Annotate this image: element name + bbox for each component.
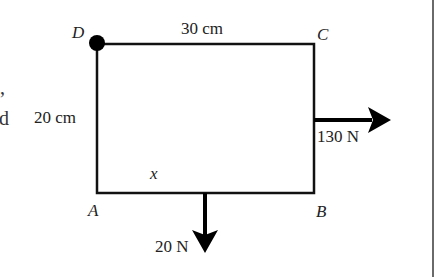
force-label-20N: 20 N [155, 238, 189, 255]
dimension-left-20cm: 20 cm [34, 109, 76, 126]
pivot-point-D [89, 35, 105, 51]
page-border-line [432, 0, 434, 277]
cut-off-text-fragment-1: , [0, 76, 5, 99]
force-label-130N: 130 N [317, 128, 359, 145]
force-arrow-20N [192, 193, 218, 253]
cut-off-text-fragment-2: d [0, 107, 9, 130]
vertex-label-A: A [88, 202, 98, 219]
vertex-label-C: C [317, 26, 328, 43]
vertex-label-B: B [316, 203, 326, 220]
vertex-label-D: D [72, 24, 84, 41]
plate-diagram [0, 0, 439, 277]
distance-label-x: x [150, 165, 158, 182]
plate-rectangle [97, 44, 314, 193]
dimension-top-30cm: 30 cm [181, 20, 223, 37]
